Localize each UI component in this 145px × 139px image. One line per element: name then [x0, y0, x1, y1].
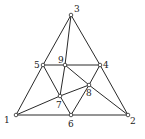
edge-8-4: [89, 65, 100, 85]
edge-8-2: [89, 85, 128, 115]
edge-1-7: [16, 96, 60, 115]
node-label-5: 5: [34, 60, 40, 70]
node-6: [69, 113, 73, 117]
edge-3-9: [65, 15, 71, 65]
edge-4-2: [100, 65, 128, 115]
node-5: [41, 63, 45, 67]
node-label-3: 3: [74, 4, 80, 14]
node-9: [63, 63, 67, 67]
node-7: [58, 94, 62, 98]
edge-9-7: [60, 65, 65, 96]
edge-3-4: [71, 15, 100, 65]
edge-5-7: [43, 65, 60, 96]
node-4: [98, 63, 102, 67]
node-1: [14, 113, 18, 117]
edge-5-3: [43, 15, 71, 65]
node-label-4: 4: [103, 60, 109, 70]
edges-layer: [16, 15, 128, 115]
node-8: [87, 83, 91, 87]
edge-1-5: [16, 65, 43, 115]
node-label-6: 6: [68, 119, 74, 129]
node-label-2: 2: [130, 116, 136, 126]
edge-7-8: [60, 85, 89, 96]
edge-9-8: [65, 65, 89, 85]
node-label-8: 8: [86, 88, 92, 98]
node-label-9: 9: [58, 55, 64, 65]
node-label-7: 7: [56, 100, 62, 110]
triangle-graph-diagram: 123456789: [0, 0, 145, 139]
node-3: [69, 13, 73, 17]
node-label-1: 1: [4, 115, 10, 125]
